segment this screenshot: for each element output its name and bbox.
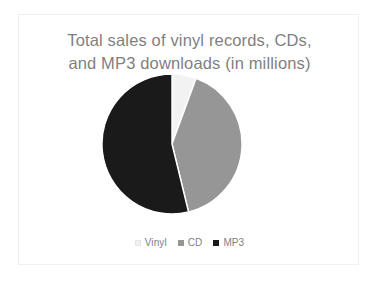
pie-chart-svg	[101, 73, 243, 215]
legend-label: CD	[188, 237, 203, 248]
legend-label: Vinyl	[145, 237, 167, 248]
pie-chart	[101, 73, 243, 215]
legend-item-cd[interactable]: CD	[178, 237, 203, 248]
legend-label: MP3	[223, 237, 244, 248]
legend-item-mp3[interactable]: MP3	[213, 237, 244, 248]
legend-swatch-icon	[178, 240, 184, 246]
legend-swatch-icon	[135, 240, 141, 246]
chart-legend: VinylCDMP3	[19, 237, 360, 248]
legend-swatch-icon	[213, 240, 219, 246]
slide-canvas: Total sales of vinyl records, CDs, and M…	[18, 14, 359, 265]
pie-slice-group	[102, 74, 242, 214]
chart-plot-area	[19, 73, 360, 233]
chart-title: Total sales of vinyl records, CDs, and M…	[19, 29, 360, 75]
legend-item-vinyl[interactable]: Vinyl	[135, 237, 167, 248]
